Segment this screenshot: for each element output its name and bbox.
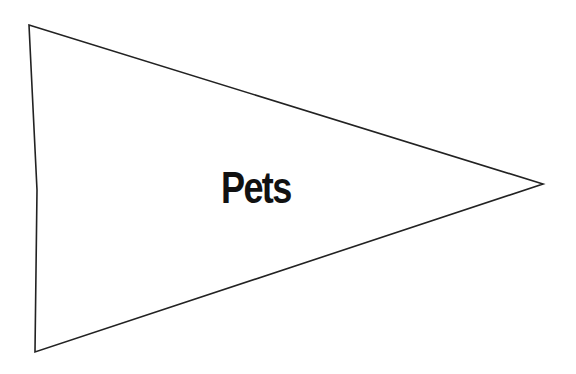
pennant-label: Pets [221, 164, 291, 213]
pennant-diagram: Pets [0, 0, 576, 374]
